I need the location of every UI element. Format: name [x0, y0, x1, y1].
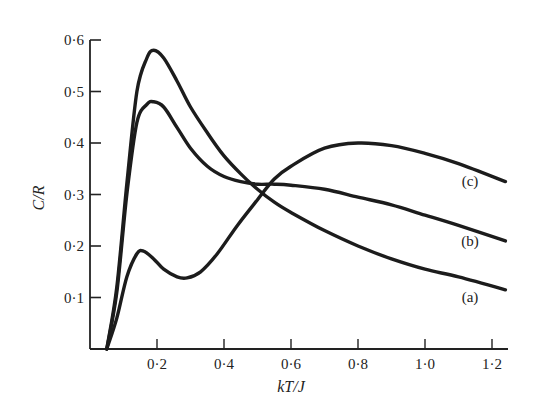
curve-label-a: (a) [462, 289, 479, 306]
x-tick-label: 1·2 [482, 356, 502, 372]
y-tick-label: 0·4 [64, 135, 84, 151]
y-tick-label: 0·6 [64, 32, 84, 48]
curve-a [107, 50, 506, 349]
axes [90, 40, 508, 349]
y-tick-label: 0·5 [64, 84, 84, 100]
x-ticks: 0·20·40·60·81·01·2 [147, 339, 502, 372]
y-axis-title: C/R [30, 185, 47, 210]
x-axis-title: kT/J [277, 378, 305, 395]
y-ticks: 0·10·20·30·40·50·6 [64, 32, 101, 306]
x-tick-label: 0·4 [214, 356, 234, 372]
curve-b [107, 102, 506, 349]
x-tick-label: 0·6 [281, 356, 301, 372]
curve-labels: (a)(b)(c) [461, 173, 479, 306]
curve-c [107, 143, 506, 349]
x-tick-label: 0·2 [147, 356, 167, 372]
curves [107, 50, 506, 349]
y-tick-label: 0·3 [64, 187, 84, 203]
x-tick-label: 1·0 [415, 356, 435, 372]
curve-label-b: (b) [461, 233, 479, 250]
y-tick-label: 0·1 [64, 290, 84, 306]
chart: 0·10·20·30·40·50·6 0·20·40·60·81·01·2 (a… [0, 0, 535, 412]
x-tick-label: 0·8 [348, 356, 368, 372]
curve-label-c: (c) [462, 173, 479, 190]
y-tick-label: 0·2 [64, 238, 84, 254]
